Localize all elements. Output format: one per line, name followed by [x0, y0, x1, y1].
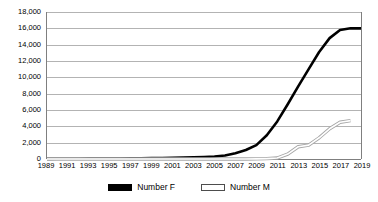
x-tick-label: 2015	[312, 161, 329, 171]
chart-legend: Number FNumber M	[0, 180, 378, 194]
series-line-number-f	[47, 28, 361, 159]
series-layer	[47, 12, 361, 159]
plot-area	[46, 12, 362, 159]
x-tick-label: 2009	[248, 161, 265, 171]
x-tick-label: 2003	[185, 161, 202, 171]
y-tick-label: 16,000	[18, 24, 41, 32]
x-tick-label: 1991	[59, 161, 76, 171]
legend-entry[interactable]: Number F	[108, 182, 175, 192]
x-tick-label: 2013	[290, 161, 307, 171]
y-tick-label: 2,000	[22, 139, 41, 147]
y-tick-label: 14,000	[18, 41, 41, 49]
y-tick-label: 8,000	[22, 90, 41, 98]
series-line-number-m	[47, 121, 351, 159]
x-tick-label: 2005	[206, 161, 223, 171]
x-tick-label: 2001	[164, 161, 181, 171]
y-tick-label: 4,000	[22, 122, 41, 130]
y-axis: 02,0004,0006,0008,00010,00012,00014,0001…	[0, 0, 44, 171]
legend-label: Number M	[230, 182, 270, 192]
x-tick-label: 1989	[38, 161, 55, 171]
x-tick-label: 2017	[333, 161, 350, 171]
y-tick-label: 18,000	[18, 8, 41, 16]
x-tick-label: 1997	[122, 161, 139, 171]
legend-label: Number F	[137, 182, 175, 192]
legend-entry[interactable]: Number M	[201, 182, 270, 192]
line-chart: 02,0004,0006,0008,00010,00012,00014,0001…	[0, 0, 378, 202]
y-tick-label: 6,000	[22, 106, 41, 114]
y-tick-label: 10,000	[18, 73, 41, 81]
series-line-number-m-outline	[47, 121, 351, 159]
x-tick-label: 1993	[80, 161, 97, 171]
x-tick-label: 2007	[227, 161, 244, 171]
outline-white-swatch	[201, 184, 225, 191]
x-axis: 1989199119931995199719992001200320052007…	[46, 161, 362, 173]
x-tick-label: 2011	[270, 161, 286, 171]
x-tick-label: 1995	[101, 161, 118, 171]
solid-black-swatch	[108, 184, 132, 191]
y-tick-label: 12,000	[18, 57, 41, 65]
x-tick-label: 1999	[143, 161, 160, 171]
x-tick-label: 2019	[354, 161, 371, 171]
